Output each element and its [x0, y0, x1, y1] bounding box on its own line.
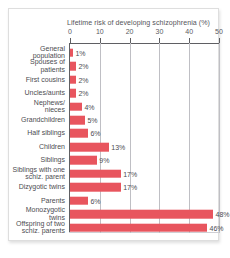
bar: [70, 196, 88, 205]
bar: [70, 183, 121, 192]
bar: [70, 102, 82, 111]
bar: [70, 62, 76, 71]
bar-value-label: 1%: [75, 49, 85, 56]
bar: [70, 129, 88, 138]
category-label: Dizygotic twins: [0, 184, 65, 192]
bar: [70, 49, 73, 58]
bar-value-label: 6%: [90, 197, 100, 204]
bar-value-label: 17%: [123, 184, 137, 191]
x-tick-label: 30: [149, 28, 169, 35]
category-label: Siblings: [0, 157, 65, 165]
category-label: Offspring of two schiz. parents: [0, 220, 65, 235]
category-label: Half siblings: [0, 130, 65, 138]
category-label: Parents: [0, 197, 65, 205]
bar-value-label: 17%: [123, 170, 137, 177]
x-tick-label: 50: [209, 28, 228, 35]
category-label: Uncles/aunts: [0, 89, 65, 97]
x-tick-mark: [70, 38, 71, 43]
bar: [70, 170, 121, 179]
bar-value-label: 6%: [90, 130, 100, 137]
x-tick-label: 0: [60, 28, 80, 35]
bar-value-label: 9%: [99, 157, 109, 164]
bar: [70, 116, 85, 125]
bar-chart-plot: 01020304050 General population1%Spouses …: [9, 9, 220, 242]
category-label: First cousins: [0, 76, 65, 84]
bar-value-label: 2%: [78, 90, 88, 97]
bar-value-label: 46%: [210, 224, 224, 231]
chart-figure: Lifetime risk of developing schizophreni…: [8, 8, 219, 241]
x-axis-line: [69, 43, 219, 44]
bar-value-label: 48%: [216, 211, 228, 218]
bar-value-label: 2%: [78, 63, 88, 70]
x-tick-label: 20: [120, 28, 140, 35]
bar-value-label: 13%: [111, 143, 125, 150]
bar: [70, 143, 109, 152]
category-label: Grandchildren: [0, 116, 65, 124]
bar: [70, 223, 207, 232]
category-label: Children: [0, 143, 65, 151]
bar: [70, 210, 213, 219]
x-tick-label: 40: [179, 28, 199, 35]
bar-value-label: 2%: [78, 76, 88, 83]
bar: [70, 156, 97, 165]
bar-value-label: 4%: [84, 103, 94, 110]
bar-row: Offspring of two schiz. parents46%: [9, 220, 220, 236]
x-tick-label: 10: [90, 28, 110, 35]
bar-value-label: 5%: [87, 117, 97, 124]
bar: [70, 75, 76, 84]
bar: [70, 89, 76, 98]
